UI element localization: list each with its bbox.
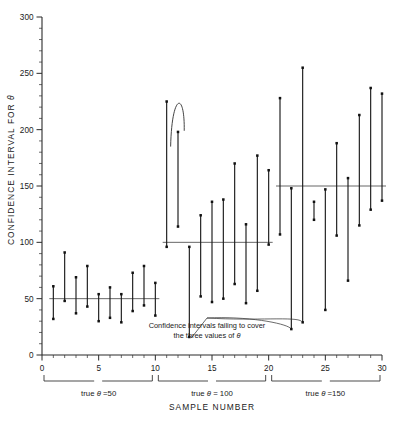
confidence-interval xyxy=(233,162,236,285)
interval-upper-endpoint xyxy=(86,265,89,268)
interval-upper-endpoint xyxy=(313,201,316,204)
confidence-interval xyxy=(347,177,350,282)
interval-upper-endpoint xyxy=(324,188,327,191)
interval-upper-endpoint xyxy=(52,285,55,288)
confidence-interval xyxy=(313,201,316,222)
confidence-interval xyxy=(199,214,202,298)
group-brace xyxy=(44,375,152,381)
x-tick-label: 15 xyxy=(207,364,217,373)
interval-upper-endpoint xyxy=(369,87,372,90)
y-tick-label: 0 xyxy=(29,351,34,360)
annotation-line-1: Confidence intervals failing to cover xyxy=(149,321,266,330)
group-braces xyxy=(44,375,380,381)
chart-text-labels: CONFIDENCE INTERVAL FOR θSAMPLE NUMBERtr… xyxy=(6,94,346,412)
confidence-interval xyxy=(335,142,338,237)
interval-lower-endpoint xyxy=(154,314,157,317)
interval-lower-endpoint xyxy=(120,321,123,324)
confidence-interval xyxy=(290,187,293,330)
interval-upper-endpoint xyxy=(347,177,350,180)
y-tick-label: 200 xyxy=(20,126,34,135)
confidence-interval xyxy=(109,286,112,319)
x-axis-title: SAMPLE NUMBER xyxy=(169,402,255,412)
confidence-interval xyxy=(63,251,66,302)
interval-lower-endpoint xyxy=(335,234,338,237)
confidence-interval xyxy=(301,66,304,323)
interval-lower-endpoint xyxy=(324,309,327,312)
group-brace xyxy=(158,375,265,381)
y-tick-label: 150 xyxy=(20,182,34,191)
y-tick-label: 250 xyxy=(20,69,34,78)
interval-upper-endpoint xyxy=(165,100,168,103)
x-tick-label: 5 xyxy=(96,364,101,373)
interval-lower-endpoint xyxy=(63,300,66,303)
interval-lower-endpoint xyxy=(313,219,316,222)
y-tick-label: 100 xyxy=(20,238,34,247)
interval-lower-endpoint xyxy=(301,321,304,324)
group-theta-150: true θ =150 xyxy=(306,389,346,398)
interval-upper-endpoint xyxy=(245,223,248,226)
interval-upper-endpoint xyxy=(381,92,384,95)
x-tick-label: 10 xyxy=(151,364,161,373)
interval-upper-endpoint xyxy=(154,282,157,285)
confidence-interval xyxy=(256,154,259,292)
interval-upper-endpoint xyxy=(188,246,191,249)
confidence-interval xyxy=(279,97,282,236)
confidence-interval xyxy=(381,92,384,202)
interval-upper-endpoint xyxy=(199,214,202,217)
interval-lower-endpoint xyxy=(143,304,146,307)
interval-lower-endpoint xyxy=(256,290,259,293)
interval-lower-endpoint xyxy=(381,199,384,202)
interval-upper-endpoint xyxy=(131,272,134,275)
y-axis: 050100150200250300 xyxy=(20,13,42,360)
y-axis-title: CONFIDENCE INTERVAL FOR θ xyxy=(6,94,16,245)
x-tick-label: 20 xyxy=(264,364,274,373)
confidence-interval xyxy=(324,188,327,311)
confidence-interval-series xyxy=(52,66,383,338)
interval-lower-endpoint xyxy=(165,246,168,249)
confidence-interval xyxy=(222,198,225,300)
interval-upper-endpoint xyxy=(97,293,100,296)
confidence-interval xyxy=(211,201,214,304)
interval-upper-endpoint xyxy=(177,131,180,134)
x-axis: 051015202530 xyxy=(40,355,387,373)
confidence-interval xyxy=(154,282,157,317)
confidence-interval xyxy=(143,265,146,307)
y-axis-title-theta: θ xyxy=(6,94,16,100)
confidence-interval xyxy=(120,293,123,324)
group-theta-50: true θ =50 xyxy=(81,389,117,398)
confidence-interval xyxy=(86,265,89,308)
reference-lines xyxy=(49,186,386,299)
interval-upper-endpoint xyxy=(143,265,146,268)
confidence-interval xyxy=(369,87,372,211)
interval-lower-endpoint xyxy=(211,301,214,304)
interval-lower-endpoint xyxy=(245,302,248,305)
interval-lower-endpoint xyxy=(52,318,55,321)
x-tick-label: 0 xyxy=(40,364,45,373)
confidence-interval xyxy=(177,131,180,228)
x-tick-label: 30 xyxy=(377,364,387,373)
interval-lower-endpoint xyxy=(279,233,282,236)
interval-upper-endpoint xyxy=(290,187,293,190)
confidence-interval-figure: 050100150200250300 051015202530 CONFIDEN… xyxy=(0,0,394,423)
group-brace xyxy=(272,375,380,381)
interval-upper-endpoint xyxy=(279,97,282,100)
interval-lower-endpoint xyxy=(347,279,350,282)
interval-lower-endpoint xyxy=(75,312,78,315)
interval-lower-endpoint xyxy=(290,328,293,331)
confidence-interval xyxy=(358,114,361,227)
interval-upper-endpoint xyxy=(109,286,112,289)
interval-upper-endpoint xyxy=(211,201,214,204)
interval-lower-endpoint xyxy=(109,317,112,320)
confidence-interval xyxy=(52,285,55,320)
interval-upper-endpoint xyxy=(335,142,338,145)
interval-lower-endpoint xyxy=(86,305,89,308)
interval-upper-endpoint xyxy=(256,154,259,157)
interval-upper-endpoint xyxy=(120,293,123,296)
interval-lower-endpoint xyxy=(358,224,361,227)
interval-lower-endpoint xyxy=(369,208,372,211)
confidence-interval xyxy=(75,276,78,315)
confidence-interval xyxy=(245,223,248,304)
interval-upper-endpoint xyxy=(222,198,225,201)
interval-upper-endpoint xyxy=(267,169,270,172)
interval-lower-endpoint xyxy=(177,225,180,228)
